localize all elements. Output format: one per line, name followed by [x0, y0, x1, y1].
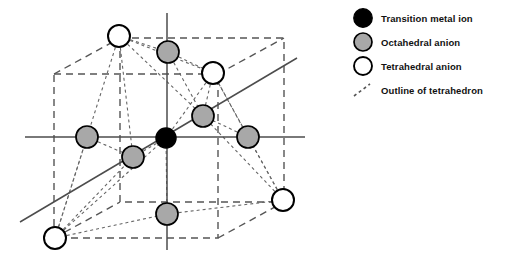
- atom-octahedral-anion: [237, 126, 259, 148]
- cell-edge-tr: [218, 38, 284, 74]
- atom-octahedral-anion: [122, 146, 144, 168]
- atom-group: [44, 25, 294, 249]
- legend-label: Outline of tetrahedron: [376, 85, 483, 96]
- legend-item-transition-metal-ion: Transition metal ion: [352, 6, 508, 30]
- legend-label: Tetrahedral anion: [376, 61, 462, 72]
- atom-tetrahedral-anion: [272, 189, 294, 211]
- dashed-line-icon: [352, 79, 376, 101]
- legend-item-tetrahedral-anion: Tetrahedral anion: [352, 54, 508, 78]
- open-white-circle-icon: [352, 55, 376, 77]
- tetra-edge-13: [55, 214, 167, 238]
- atom-octahedral-anion: [156, 203, 178, 225]
- filled-gray-circle-icon: [352, 31, 376, 53]
- figure-canvas: Transition metal ion Octahedral anion Te…: [0, 0, 510, 258]
- atom-octahedral-anion: [192, 105, 214, 127]
- atom-tetrahedral-anion: [202, 62, 224, 84]
- tetra-edge-11: [55, 157, 133, 238]
- atom-tetrahedral-anion: [44, 227, 66, 249]
- legend-item-octahedral-anion: Octahedral anion: [352, 30, 508, 54]
- tetra-edge-12: [55, 138, 166, 238]
- legend: Transition metal ion Octahedral anion Te…: [352, 6, 508, 102]
- filled-black-circle-icon: [352, 7, 376, 29]
- legend-label: Transition metal ion: [376, 13, 473, 24]
- legend-item-tetrahedron-outline: Outline of tetrahedron: [352, 78, 508, 102]
- atom-tetrahedral-anion: [108, 25, 130, 47]
- atom-octahedral-anion: [157, 41, 179, 63]
- atom-transition-metal-ion: [156, 128, 176, 148]
- legend-label: Octahedral anion: [376, 37, 460, 48]
- atom-octahedral-anion: [76, 126, 98, 148]
- tetra-edge-4: [119, 36, 133, 157]
